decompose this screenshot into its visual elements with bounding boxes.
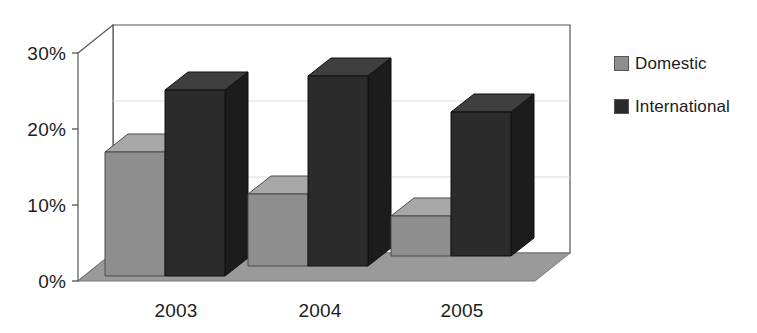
legend-swatch-domestic xyxy=(614,56,629,71)
x-axis-label-2004: 2004 xyxy=(298,300,341,321)
chart-legend: Domestic International xyxy=(614,48,754,134)
legend-label-domestic: Domestic xyxy=(635,55,707,72)
y-axis-label-20: 20% xyxy=(27,119,66,140)
bar-front-face xyxy=(308,76,368,266)
bar-front-face xyxy=(451,112,511,256)
bar-front-face xyxy=(165,90,225,276)
bar-international-2003[interactable] xyxy=(165,72,248,276)
bar-international-2004[interactable] xyxy=(308,58,391,266)
bar-front-face xyxy=(105,152,165,276)
y-axis-label-30: 30% xyxy=(27,43,66,64)
legend-label-international: International xyxy=(635,98,730,115)
bar-front-face xyxy=(391,216,451,256)
bar-side-face xyxy=(511,94,534,256)
bar-side-face xyxy=(225,72,248,276)
legend-swatch-international xyxy=(614,99,629,114)
bar-chart: 30% 20% 10% 0% xyxy=(0,0,757,333)
bar-international-2005[interactable] xyxy=(451,94,534,256)
legend-item-international[interactable]: International xyxy=(614,91,754,121)
y-axis-label-0: 0% xyxy=(38,271,66,292)
legend-item-domestic[interactable]: Domestic xyxy=(614,48,754,78)
x-axis-label-2005: 2005 xyxy=(440,300,483,321)
y-axis-label-10: 10% xyxy=(27,195,66,216)
bar-front-face xyxy=(248,194,308,266)
bar-side-face xyxy=(368,58,391,266)
x-axis-label-2003: 2003 xyxy=(154,300,197,321)
